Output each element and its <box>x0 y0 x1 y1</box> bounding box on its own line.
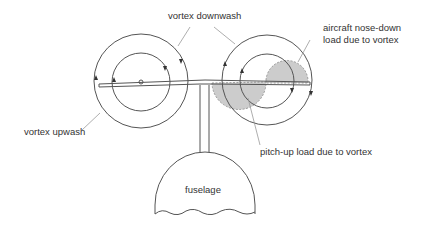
nose-down-load-region <box>266 60 308 83</box>
pitch-up-load-region <box>212 82 266 110</box>
nose-down-label-line2: load due to vortex <box>323 34 399 45</box>
fin-stem <box>200 85 209 152</box>
downwash-leader-right <box>214 27 235 44</box>
vortex-diagram: fuselage vortex downwash aircraft nose-d… <box>0 0 425 227</box>
downwash-leader-left <box>178 27 190 46</box>
vortex-upwash-label: vortex upwash <box>24 126 85 137</box>
tailplane <box>99 80 310 87</box>
pitch-up-label: pitch-up load due to vortex <box>260 146 372 157</box>
arrow-icon <box>290 88 294 93</box>
fuselage: fuselage <box>155 152 255 215</box>
arrow-icon <box>179 59 183 64</box>
vortex-downwash-label: vortex downwash <box>168 10 241 21</box>
fuselage-label: fuselage <box>185 184 221 195</box>
nose-down-label-line1: aircraft nose-down <box>323 22 401 33</box>
nose-down-leader <box>298 40 310 62</box>
